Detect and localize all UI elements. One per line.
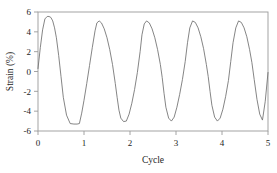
x-axis-ticks [38,131,268,135]
x-axis-title: Cycle [142,155,164,165]
y-axis-title: Strain (%) [5,52,16,91]
y-ticklabel-3: 0 [27,67,32,77]
strain-cycle-chart: -6 -4 -2 0 2 4 6 0 1 2 3 4 [0,0,277,173]
y-ticklabel-2: -2 [24,87,32,97]
x-ticklabel-0: 0 [36,138,41,148]
y-axis-tick-labels: -6 -4 -2 0 2 4 6 [24,7,32,136]
x-axis-tick-labels: 0 1 2 3 4 5 [36,138,271,148]
x-ticklabel-3: 3 [174,138,179,148]
chart-svg: -6 -4 -2 0 2 4 6 0 1 2 3 4 [0,0,277,173]
y-ticklabel-6: 6 [27,7,32,17]
plot-frame [38,12,268,131]
y-ticklabel-0: -6 [24,126,32,136]
x-ticklabel-2: 2 [128,138,133,148]
y-ticklabel-4: 2 [27,47,32,57]
x-ticklabel-4: 4 [220,138,225,148]
y-axis-ticks [34,12,38,131]
y-ticklabel-5: 4 [27,27,32,37]
x-ticklabel-5: 5 [266,138,271,148]
chart-page: -6 -4 -2 0 2 4 6 0 1 2 3 4 [0,0,277,173]
x-ticklabel-1: 1 [82,138,87,148]
strain-data-line [38,16,268,124]
y-ticklabel-1: -4 [24,106,32,116]
